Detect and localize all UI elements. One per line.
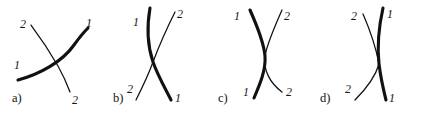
panel-a-label-1-bottom-left: 1 xyxy=(14,59,20,71)
panel-b-curve-2 xyxy=(136,12,175,100)
panel-b: 1221b) xyxy=(105,0,211,114)
panel-b-label-2-bottom-left: 2 xyxy=(127,83,133,95)
panel-d-label-2-bottom-left: 2 xyxy=(345,83,351,95)
panel-c: 1212c) xyxy=(210,0,316,114)
panel-a-curve-1 xyxy=(18,28,88,80)
panel-b-label-1-top-left: 1 xyxy=(133,16,139,28)
panel-a-label-1-top-right: 1 xyxy=(86,17,92,29)
panel-b-caption: b) xyxy=(113,92,123,105)
panel-b-curve-1 xyxy=(148,8,171,100)
panel-d-label-1-bottom-right: 1 xyxy=(389,92,395,104)
panel-d-curve-1 xyxy=(378,8,386,100)
panel-a-label-2-bottom-right: 2 xyxy=(72,94,78,106)
panel-d-caption: d) xyxy=(320,92,330,105)
panel-a: 2112a) xyxy=(0,0,106,114)
panel-c-label-2-top-right: 2 xyxy=(284,10,290,22)
panel-c-curve-1 xyxy=(250,10,265,98)
panel-d-curve-2 xyxy=(355,14,379,100)
panel-c-curve-2 xyxy=(265,10,282,92)
panel-a-curve-2 xyxy=(31,25,70,92)
panel-c-label-2-bottom-right: 2 xyxy=(286,86,292,98)
panel-c-label-1-bottom-left: 1 xyxy=(243,86,249,98)
panel-c-label-1-top-left: 1 xyxy=(234,10,240,22)
panel-b-label-1-bottom-right: 1 xyxy=(175,92,181,104)
panel-c-caption: c) xyxy=(218,92,228,105)
panel-d-curves xyxy=(315,0,421,114)
panel-d-label-1-top-right: 1 xyxy=(387,8,393,20)
panel-a-caption: a) xyxy=(12,92,22,105)
panel-a-label-2-top-left: 2 xyxy=(20,18,26,30)
panel-d: 2121d) xyxy=(315,0,421,114)
panel-d-label-2-top-left: 2 xyxy=(351,10,357,22)
panel-b-label-2-top-right: 2 xyxy=(177,8,183,20)
figure-curve-configurations: 2112a)1221b)1212c)2121d) xyxy=(0,0,421,114)
